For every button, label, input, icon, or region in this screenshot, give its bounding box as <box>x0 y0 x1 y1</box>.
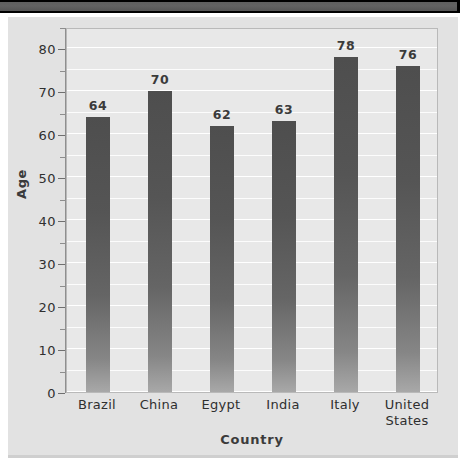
x-tick-label: United States <box>376 397 438 429</box>
y-axis-title: Age <box>14 169 29 199</box>
bar-value-label: 62 <box>213 107 231 122</box>
bar-slot: 70 <box>129 29 191 392</box>
x-tick-label: Italy <box>314 397 376 413</box>
x-tick-label: China <box>128 397 190 413</box>
y-tick-mark-major <box>58 135 65 136</box>
bar[interactable] <box>148 91 172 392</box>
x-axis-title: Country <box>66 432 438 447</box>
bar[interactable] <box>272 121 296 392</box>
bars-layer: 647062637876 <box>67 29 437 392</box>
x-tick-label: Brazil <box>66 397 128 413</box>
y-tick-label: 10 <box>38 343 56 358</box>
bar-value-label: 76 <box>399 47 417 62</box>
bar-slot: 76 <box>377 29 438 392</box>
y-tick-mark-major <box>58 178 65 179</box>
y-tick-label: 40 <box>38 214 56 229</box>
bar-slot: 78 <box>315 29 377 392</box>
chart-screenshot: 01020304050607080 Age 647062637876 Brazi… <box>0 0 466 472</box>
y-tick-mark-major <box>58 307 65 308</box>
bar[interactable] <box>86 117 110 392</box>
y-tick-label: 20 <box>38 300 56 315</box>
bar-value-label: 63 <box>275 102 293 117</box>
bar[interactable] <box>210 126 234 392</box>
y-tick-label: 80 <box>38 42 56 57</box>
y-tick-label: 30 <box>38 257 56 272</box>
y-tick-mark-major <box>58 350 65 351</box>
y-tick-label: 0 <box>47 386 56 401</box>
y-tick-label: 60 <box>38 128 56 143</box>
y-tick-mark-major <box>58 92 65 93</box>
y-tick-mark-major <box>58 393 65 394</box>
window-titlebar <box>0 0 460 13</box>
bar-slot: 63 <box>253 29 315 392</box>
y-tick-label: 50 <box>38 171 56 186</box>
y-tick-mark-major <box>58 221 65 222</box>
y-tick-mark-major <box>58 49 65 50</box>
bar-value-label: 64 <box>89 98 107 113</box>
bar[interactable] <box>334 57 358 392</box>
bar-value-label: 70 <box>151 72 169 87</box>
bar-slot: 62 <box>191 29 253 392</box>
y-tick-mark-major <box>58 264 65 265</box>
y-tick-label: 70 <box>38 85 56 100</box>
y-axis: 01020304050607080 <box>8 17 66 404</box>
x-tick-label: Egypt <box>190 397 252 413</box>
bar[interactable] <box>396 66 420 392</box>
bar-slot: 64 <box>67 29 129 392</box>
plot-area: 647062637876 <box>66 28 438 393</box>
x-tick-label: India <box>252 397 314 413</box>
chart-figure: 01020304050607080 Age 647062637876 Brazi… <box>8 17 458 455</box>
bar-value-label: 78 <box>337 38 355 53</box>
